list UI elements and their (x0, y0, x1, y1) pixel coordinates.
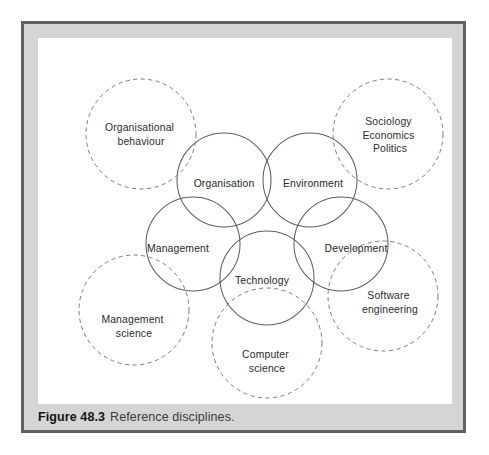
circle-management-science (79, 255, 189, 365)
diagram-panel: Organisational behaviour Sociology Econo… (38, 38, 452, 404)
figure-caption: Figure 48.3Reference disciplines. (38, 410, 458, 430)
label-management-science: Management science (101, 314, 166, 339)
caption-text: Reference disciplines. (110, 410, 234, 424)
label-organisation: Organisation (194, 178, 255, 189)
label-environment: Environment (283, 178, 343, 189)
label-sociology-economics-politics: Sociology Economics Politics (362, 116, 417, 154)
figure-frame: Organisational behaviour Sociology Econo… (21, 21, 466, 433)
label-organisational-behaviour: Organisational behaviour (105, 122, 177, 147)
figure-container: Organisational behaviour Sociology Econo… (0, 0, 489, 455)
label-development: Development (325, 243, 388, 254)
label-computer-science: Computer science (242, 349, 292, 374)
label-software-engineering: Software engineering (362, 290, 418, 315)
circle-organisational-behaviour (86, 79, 196, 189)
core-discipline-labels: Organisation Environment Management Deve… (147, 178, 388, 286)
reference-disciplines-diagram: Organisational behaviour Sociology Econo… (38, 38, 452, 404)
label-management: Management (147, 243, 209, 254)
core-discipline-circles (146, 133, 388, 325)
caption-number: Figure 48.3 (38, 410, 105, 424)
label-technology: Technology (235, 275, 290, 286)
